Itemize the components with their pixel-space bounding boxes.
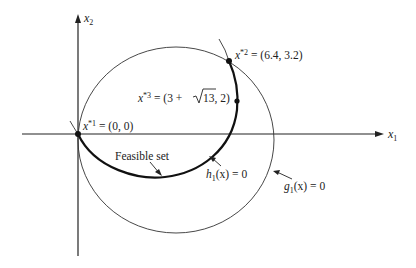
pointer-arrow-icon	[155, 169, 162, 176]
point-x3-label: x*3 = (3 + 13, 2)	[137, 89, 230, 105]
feasible-set-label: Feasible set	[115, 150, 170, 162]
g1-pointer	[273, 170, 292, 179]
point-x1-marker	[75, 131, 81, 137]
pointer-arrow-icon	[273, 170, 280, 175]
g1-label: g1(x) = 0	[284, 180, 325, 195]
h1-label: h1(x) = 0	[206, 168, 247, 183]
point-x1-label: x*1 = (0, 0)	[82, 119, 133, 133]
x2-axis-label: x2	[83, 11, 93, 27]
feasible-set-pointer	[150, 162, 162, 176]
point-x2-label: x*2 = (6.4, 3.2)	[234, 48, 303, 62]
svg-text:13, 2): 13, 2)	[203, 92, 230, 105]
point-x3-marker	[234, 98, 239, 103]
h1-pointer	[209, 156, 221, 166]
x1-axis-label: x1	[387, 127, 397, 143]
h1-curve-extension-top	[219, 39, 229, 61]
svg-text:x*3 = (3 +: x*3 = (3 +	[137, 91, 182, 105]
constraint-diagram: x2 x1 x*1 = (0, 0) x*2 = (6.4, 3.2) x*3 …	[0, 0, 416, 268]
x1-arrow-icon	[375, 131, 384, 137]
point-x2-marker	[226, 58, 232, 64]
g1-constraint-circle	[78, 47, 274, 233]
x2-arrow-icon	[75, 14, 81, 23]
